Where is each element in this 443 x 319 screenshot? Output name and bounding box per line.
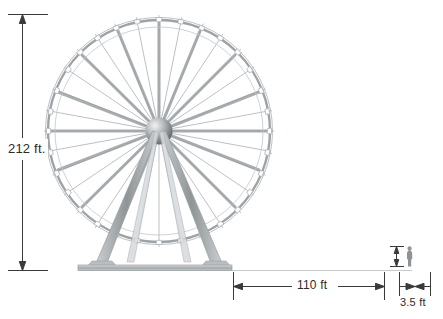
scale-person-figure: [407, 246, 412, 266]
ferris-wheel: [44, 15, 274, 247]
diagram-canvas: 212 ft. 110 ft 3.5 ft: [0, 0, 443, 319]
dimension-person-3_5ft: [400, 272, 431, 296]
base-platform: [78, 265, 232, 271]
dimension-label-height: 212 ft.: [6, 139, 48, 158]
dimension-label-person: 3.5 ft: [398, 296, 428, 308]
dimension-label-base-width: 110 ft: [293, 277, 331, 293]
ferris-wheel-drawing: [0, 0, 443, 319]
dimension-person-height: [390, 247, 404, 267]
